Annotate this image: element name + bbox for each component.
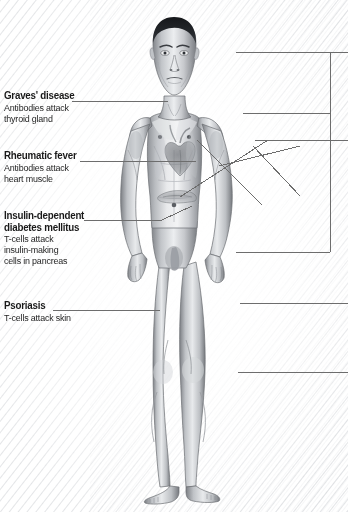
diagram-page: Graves' disease Antibodies attack thyroi…	[0, 0, 348, 512]
graves-disease-title: Graves' disease	[4, 90, 75, 102]
diabetes-title-line-2: diabetes mellitus	[4, 222, 84, 234]
rheumatic-fever-title: Rheumatic fever	[4, 150, 76, 162]
rheumatic-fever-desc-line-2: heart muscle	[4, 173, 76, 184]
psoriasis-title: Psoriasis	[4, 300, 71, 312]
psoriasis-desc-line-1: T-cells attack skin	[4, 312, 71, 323]
label-insulin-dependent-diabetes-mellitus: Insulin-dependent diabetes mellitus T-ce…	[4, 210, 90, 267]
label-graves-disease: Graves' disease Antibodies attack thyroi…	[4, 90, 80, 124]
diabetes-desc-line-3: cells in pancreas	[4, 255, 84, 266]
diabetes-desc-line-2: insulin-making	[4, 244, 84, 255]
label-psoriasis: Psoriasis T-cells attack skin	[4, 300, 76, 323]
graves-disease-desc-line-2: thyroid gland	[4, 113, 75, 124]
graves-disease-desc-line-1: Antibodies attack	[4, 102, 75, 113]
rheumatic-fever-desc-line-1: Antibodies attack	[4, 162, 76, 173]
diabetes-desc-line-1: T-cells attack	[4, 233, 84, 244]
label-rheumatic-fever: Rheumatic fever Antibodies attack heart …	[4, 150, 82, 184]
